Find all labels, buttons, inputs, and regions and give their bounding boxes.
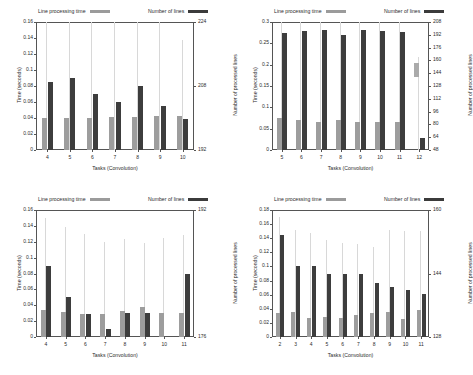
y2-tick-label: 112 [433, 96, 453, 101]
y-tick-label: 0.25 [248, 40, 269, 45]
y-tick-mark [34, 134, 36, 135]
bar-line-processing-time [87, 118, 92, 150]
y2-tick-mark [429, 210, 431, 211]
x-tick-mark [115, 150, 116, 152]
x-tick-mark [184, 337, 185, 339]
bar-line-processing-time [307, 318, 311, 337]
x-tick-mark [66, 337, 67, 339]
x-tick-label: 4 [37, 155, 57, 160]
y2-tick-label: 144 [433, 70, 453, 75]
legend-swatch-dark [188, 198, 208, 201]
plot-frame [36, 22, 194, 150]
y-tick-mark [34, 289, 36, 290]
legend-swatch-light [326, 198, 346, 201]
x-tick-label: 10 [154, 342, 174, 347]
bar-line-processing-time [355, 122, 360, 150]
x-tick-label: 9 [350, 155, 370, 160]
x-tick-mark [341, 150, 342, 152]
x-tick-mark [400, 150, 401, 152]
legend-label: Number of lines [384, 196, 420, 202]
y2-tick-mark [429, 73, 431, 74]
bar-line-processing-time [42, 118, 47, 150]
x-tick-label: 7 [95, 342, 115, 347]
y2-tick-label: 160 [433, 207, 453, 212]
x-tick-mark [164, 337, 165, 339]
y-axis-title: Time (seconds) [16, 238, 22, 308]
x-tick-mark [419, 150, 420, 152]
y2-tick-mark [429, 60, 431, 61]
bar-line-processing-time [61, 312, 66, 337]
y-tick-mark [270, 224, 272, 225]
bar-number-of-lines [420, 138, 425, 150]
y-tick-mark [270, 43, 272, 44]
y-tick-mark [270, 150, 272, 151]
y-tick-mark [270, 252, 272, 253]
y2-tick-mark [429, 86, 431, 87]
x-tick-mark [390, 337, 391, 339]
y2-tick-label: 128 [433, 334, 453, 339]
x-tick-label: 8 [115, 342, 135, 347]
y-tick-label: 0.16 [12, 19, 33, 24]
legend-label: Line processing time [38, 196, 86, 202]
y2-tick-label: 80 [433, 121, 453, 126]
y-tick-mark [270, 65, 272, 66]
y2-tick-label: 192 [198, 147, 218, 152]
bar-number-of-lines [375, 283, 379, 337]
x-tick-label: 9 [150, 155, 170, 160]
bar-number-of-lines [185, 274, 190, 337]
x-axis-title: Tasks (Convolution) [272, 352, 429, 358]
bar-line-processing-time [80, 314, 85, 337]
x-tick-mark [360, 150, 361, 152]
x-tick-mark [327, 337, 328, 339]
y-tick-mark [34, 150, 36, 151]
bar-number-of-lines [390, 287, 394, 337]
bar-line-processing-time [291, 312, 295, 337]
x-tick-label: 6 [291, 155, 311, 160]
y-tick-label: 0.14 [12, 223, 33, 228]
y2-tick-label: 208 [433, 19, 453, 24]
y-tick-label: 0.02 [12, 318, 33, 323]
x-axis-title: Tasks (Convolution) [272, 165, 429, 171]
y-tick-label: 0 [12, 334, 33, 339]
bar-line-processing-time [417, 310, 421, 337]
y-tick-mark [270, 238, 272, 239]
y-tick-label: 0.18 [248, 207, 269, 212]
y2-tick-label: 64 [433, 134, 453, 139]
x-tick-label: 5 [272, 155, 292, 160]
y-tick-mark [270, 129, 272, 130]
y2-tick-mark [429, 137, 431, 138]
y2-tick-label: 96 [433, 109, 453, 114]
legend-entry-number-of-lines: Number of lines [384, 8, 444, 14]
legend-swatch-dark [424, 10, 444, 13]
panel-bottom-left: Line processing timeNumber of lines00.02… [0, 188, 236, 375]
x-tick-mark [296, 337, 297, 339]
bar-number-of-lines [302, 31, 307, 150]
bar-number-of-lines [66, 297, 71, 337]
bar-number-of-lines [380, 31, 385, 150]
bar-line-processing-time [120, 311, 125, 337]
bar-line-processing-time [100, 314, 105, 337]
bar-line-processing-time [154, 116, 159, 150]
bar-number-of-lines [145, 313, 150, 337]
legend-entry-line-processing-time: Line processing time [38, 8, 110, 14]
y-tick-mark [270, 210, 272, 211]
legend-swatch-light [90, 198, 110, 201]
legend-entry-number-of-lines: Number of lines [384, 196, 444, 202]
x-tick-mark [343, 337, 344, 339]
legend-swatch-light [90, 10, 110, 13]
bar-line-processing-time [277, 118, 282, 150]
legend-label: Line processing time [274, 8, 322, 14]
x-tick-label: 10 [173, 155, 193, 160]
y2-tick-mark [429, 150, 431, 151]
y-tick-label: 0 [248, 334, 269, 339]
y-tick-label: 0 [248, 147, 269, 152]
y-tick-mark [34, 226, 36, 227]
y2-tick-label: 160 [433, 57, 453, 62]
y-tick-label: 0.16 [12, 207, 33, 212]
x-tick-mark [160, 150, 161, 152]
legend-label: Number of lines [148, 8, 184, 14]
legend-entry-number-of-lines: Number of lines [148, 196, 208, 202]
x-tick-label: 7 [105, 155, 125, 160]
y-tick-mark [34, 102, 36, 103]
